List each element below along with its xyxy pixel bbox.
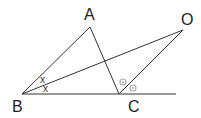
segment-CO (119, 30, 183, 94)
geometry-diagram: x x A B C O (0, 0, 201, 118)
segment-AC (90, 27, 119, 94)
label-A: A (84, 6, 95, 23)
label-C: C (128, 98, 140, 115)
angle-mark-x2: x (43, 83, 48, 94)
label-B: B (12, 98, 23, 115)
label-O: O (181, 11, 193, 28)
segment-BA (22, 27, 90, 94)
angle-marks-B: x x (40, 74, 48, 94)
